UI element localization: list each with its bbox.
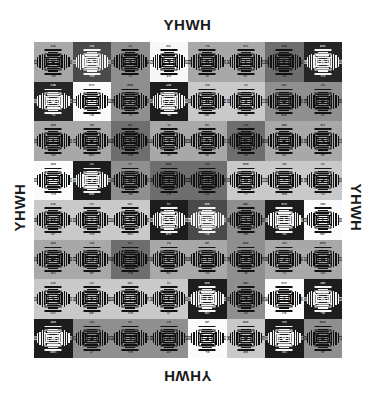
sigil-core: ד	[160, 132, 177, 149]
sigil: יכליהו150213ז	[150, 279, 189, 319]
sigil-rule-top	[199, 326, 216, 328]
sigil-glyph: ג	[129, 58, 132, 65]
sigil-glyph: מ	[243, 177, 248, 184]
sigil: סעפצב249167א	[227, 240, 266, 280]
sigil-caption-top: שתא	[243, 164, 249, 167]
sigil-glyph: ז	[283, 58, 286, 65]
sigil: אבגשדי272311א	[34, 42, 73, 82]
sigil-rule-top	[83, 326, 100, 328]
sigil-rule-bottom	[45, 191, 62, 193]
sigil-glyph: כ	[321, 137, 325, 144]
sigil-rule-top	[122, 326, 139, 328]
sigil-glyph: כ	[321, 177, 325, 184]
sigil-tile: עפצנוב190255ד	[227, 279, 266, 319]
sigil-numeral-left: 223	[305, 297, 308, 301]
sigil-caption-bottom: יהו	[167, 313, 171, 316]
sigil-core: י	[122, 290, 139, 307]
sigil-caption-top: סעפ	[243, 322, 248, 325]
sigil-tile: למנשדי182220ב	[188, 319, 227, 359]
sigil-numeral-left: 248	[74, 178, 77, 182]
sigil: צבהונה251166ה	[227, 121, 266, 161]
sigil-rule-bottom	[237, 231, 254, 233]
sigil-glyph: ע	[320, 98, 325, 105]
sigil-core: ע	[314, 93, 331, 110]
sigil-core: ו	[45, 132, 62, 149]
sigil-numeral-left: 267	[267, 297, 270, 301]
sigil-caption-top: צקר	[282, 322, 287, 325]
sigil-rule-top	[83, 89, 100, 91]
sigil-numeral-left: 204	[151, 336, 154, 340]
sigil-glyph: נ	[167, 177, 170, 184]
sigil-core: מ	[314, 290, 331, 307]
sigil-caption-top: טיכ	[205, 46, 209, 49]
sigil-tile: אתגהוא233194ש	[34, 240, 73, 280]
edge-label-left: YHWH	[11, 163, 28, 253]
sigil-caption-bottom: יהוה	[205, 194, 210, 197]
sigil-rule-bottom	[237, 152, 254, 154]
sigil-caption-top: צקר	[205, 164, 210, 167]
sigil-caption-bottom: איל	[167, 194, 171, 197]
sigil-caption-bottom: השם	[50, 352, 56, 355]
sigil-core: ש	[45, 251, 62, 268]
sigil-caption-top: זחט	[128, 204, 133, 207]
sigil-rule-top	[276, 286, 293, 288]
sigil-core: ו	[237, 53, 254, 70]
sigil-core: ג	[122, 53, 139, 70]
sigil-numeral-left: 227	[305, 257, 308, 261]
sigil-glyph: ס	[282, 98, 287, 105]
sigil-tile: צקריהוה254147ה	[188, 161, 227, 201]
sigil-tile: מנסאיל244171א	[188, 200, 227, 240]
sigil-caption-top: שתא	[320, 243, 326, 246]
sigil-rule-bottom	[83, 112, 100, 114]
sigil-caption-bottom: הדר	[320, 76, 325, 79]
sigil-glyph: י	[91, 216, 93, 223]
sigil-numeral-right: 146	[145, 60, 148, 64]
sigil-caption-bottom: ישד	[89, 273, 94, 276]
sigil-rule-bottom	[199, 270, 216, 272]
sigil-caption-top: דוא	[321, 125, 325, 128]
sigil-numeral-left: 230	[36, 139, 39, 143]
sigil: זחטאנפ158212ס	[265, 82, 304, 122]
sigil-caption-bottom: אלד	[128, 352, 133, 355]
sigil: זחטטיט119333ד	[150, 42, 189, 82]
sigil-rule-bottom	[45, 270, 62, 272]
sigil-core: י	[276, 290, 293, 307]
sigil-glyph: ד	[128, 216, 132, 223]
sigil-numeral-left: 202	[267, 336, 270, 340]
sigil-numeral-left: 231	[113, 60, 116, 64]
sigil-numeral-left: 254	[190, 178, 193, 182]
sigil-numeral-right: 237	[299, 336, 302, 340]
sigil-glyph: ס	[320, 335, 325, 342]
sigil-numeral-right: 270	[184, 336, 187, 340]
sigil-numeral-left: 245	[228, 336, 231, 340]
sigil-rule-top	[237, 168, 254, 170]
sigil-tile: הוזמנס248161ל	[73, 161, 112, 201]
sigil-glyph: ל	[90, 177, 94, 184]
sigil: שתאולי246193כ	[111, 82, 150, 122]
sigil-core: ד	[122, 330, 139, 347]
sigil-rule-top	[122, 247, 139, 249]
sigil-rule-top	[314, 286, 331, 288]
sigil-numeral-left: 201	[113, 297, 116, 301]
sigil-rule-bottom	[314, 73, 331, 75]
sigil-numeral-left: 207	[151, 139, 154, 143]
sigil-rule-top	[199, 49, 216, 51]
sigil-rule-top	[160, 207, 177, 209]
sigil-core: ו	[199, 290, 216, 307]
sigil-caption-bottom: אשד	[281, 194, 287, 197]
sigil-glyph: פ	[243, 335, 248, 342]
sigil-numeral-left: 174	[74, 257, 77, 261]
sigil-rule-top	[237, 49, 254, 51]
sigil-tile: הווובר241200כ	[304, 161, 343, 201]
sigil-rule-top	[237, 89, 254, 91]
sigil-caption-bottom: רבי	[128, 76, 132, 79]
sigil-glyph: ה	[89, 256, 94, 263]
sigil: הוזרבי231146ג	[111, 42, 150, 82]
sigil-numeral-right: 263	[145, 218, 148, 222]
sigil-core: ב	[83, 53, 100, 70]
sigil: זחטהמא197263ד	[111, 200, 150, 240]
sigil-numeral-right: 212	[299, 99, 302, 103]
sigil-core: ט	[45, 93, 62, 110]
sigil-core: ז	[276, 53, 293, 70]
sigil-rule-top	[45, 128, 62, 130]
